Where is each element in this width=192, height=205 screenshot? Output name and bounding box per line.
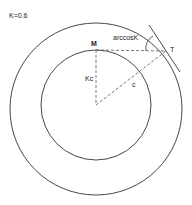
radius-inner-label: Kc bbox=[85, 75, 93, 82]
parameter-label: K=0.6 bbox=[9, 12, 28, 19]
point-m-label: M bbox=[91, 40, 97, 47]
outer-circle bbox=[10, 23, 182, 195]
diagram-canvas bbox=[0, 0, 192, 205]
angle-label: arccosK bbox=[113, 34, 138, 41]
point-t-label: T bbox=[170, 46, 174, 53]
radius-c-dashed bbox=[96, 51, 166, 105]
radius-outer-label: c bbox=[132, 81, 136, 88]
tangent-line bbox=[149, 25, 180, 72]
